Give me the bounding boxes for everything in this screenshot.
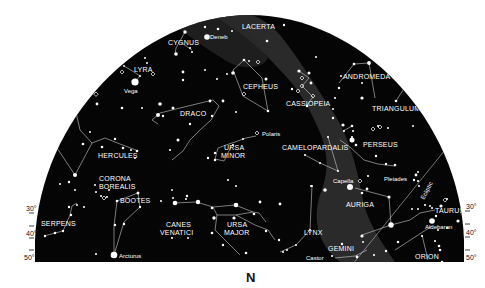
constellation-label: URSA — [227, 221, 247, 228]
constellation-label: PERSEUS — [363, 141, 398, 148]
constellation-label: LYRA — [134, 66, 153, 73]
constellation-label: SERPENS — [41, 220, 76, 227]
lat-tick-30-right: 30° — [466, 203, 477, 210]
star-label-capella: Capella — [333, 178, 354, 184]
constellation-label: CEPHEUS — [243, 83, 278, 90]
constellation-label: HERCULES — [98, 152, 138, 159]
latitude-scale-left: 30° 40° 50° — [24, 205, 37, 261]
star-label-castor: Castor — [306, 255, 324, 261]
constellation-label: LACERTA — [242, 23, 275, 30]
north-direction-label: N — [246, 270, 255, 285]
constellation-label: AURIGA — [346, 201, 374, 208]
lat-tick-30-left: 30° — [26, 205, 37, 212]
star-label-pleiades: Pleiades — [384, 176, 407, 182]
constellation-label: GEMINI — [328, 245, 354, 252]
constellation-label: CORONA — [99, 175, 131, 182]
constellation-label: BOREALIS — [99, 183, 136, 190]
constellation-label: LYNX — [304, 229, 323, 236]
constellation-label: CASSIOPEIA — [286, 100, 331, 107]
constellation-label: BOOTES — [120, 197, 151, 204]
constellation-label: MAJOR — [224, 229, 250, 236]
constellation-label: ANDROMEDA — [343, 73, 390, 80]
star-label-deneb: Deneb — [210, 34, 228, 40]
constellation-label: CYGNUS — [168, 39, 199, 46]
lat-tick-40-left: 40° — [26, 230, 37, 237]
constellation-label: TAURUS — [435, 207, 465, 214]
latitude-scale-right: 30° 40° 50° — [465, 203, 477, 261]
star-label-aldebaran: Aldebaran — [425, 224, 452, 230]
lat-tick-50-left: 50° — [24, 254, 35, 261]
constellation-label: CANES — [166, 221, 191, 228]
lat-tick-40-right: 40° — [466, 229, 477, 236]
constellation-label: URSA — [224, 144, 244, 151]
star-label-vega: Vega — [124, 88, 138, 94]
star-label-polaris: Polaris — [262, 131, 280, 137]
constellation-label: DRACO — [180, 110, 207, 117]
star-label-arcturus: Arcturus — [119, 253, 141, 259]
constellation-label: VENATICI — [160, 229, 193, 236]
constellation-label: ORION — [415, 253, 439, 260]
constellation-label: CAMELOPARDALIS — [282, 144, 349, 151]
constellation-label: MINOR — [221, 152, 245, 159]
lat-tick-50-right: 50° — [466, 254, 477, 261]
constellation-label: TRIANGULUM — [372, 105, 420, 112]
sky-chart: Ecliptic — [0, 0, 485, 288]
